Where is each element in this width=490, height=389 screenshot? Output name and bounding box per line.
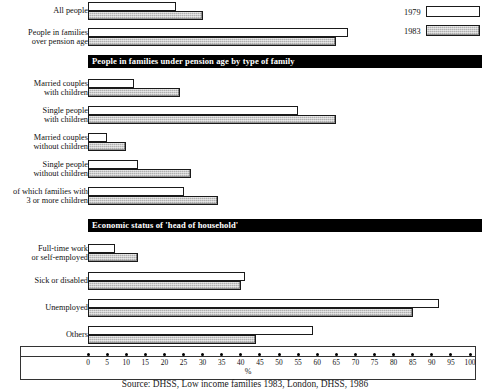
axis-tick-label: 45 xyxy=(256,358,263,367)
bar-1983 xyxy=(88,142,126,151)
category-label: of which families with 3 or more childre… xyxy=(0,187,88,206)
axis-line xyxy=(21,356,475,357)
axis-tick-label: 50 xyxy=(275,358,282,367)
bar-1979 xyxy=(88,2,176,11)
axis-tick xyxy=(316,353,319,356)
bar-1979 xyxy=(88,187,184,196)
axis-tick-label: 80 xyxy=(390,358,397,367)
legend-label-1979: 1979 xyxy=(404,7,421,18)
category-label: Sick or disabled xyxy=(0,276,88,285)
bar-1983 xyxy=(88,308,413,317)
axis-tick-label: 40 xyxy=(237,358,244,367)
legend-swatch-1983 xyxy=(426,25,480,36)
bar-1979 xyxy=(88,299,439,308)
axis-tick-label: 25 xyxy=(180,358,187,367)
axis-tick-label: 65 xyxy=(333,358,340,367)
axis-tick xyxy=(297,353,300,356)
bar-1983 xyxy=(88,335,256,344)
axis-tick-label: 60 xyxy=(313,358,320,367)
category-label: People in families over pension age xyxy=(0,28,88,47)
bar-1979 xyxy=(88,244,115,253)
axis-tick xyxy=(335,353,338,356)
axis-tick-label: 15 xyxy=(142,358,149,367)
axis-tick xyxy=(163,353,166,356)
x-axis: 0510152025303540455055606570758085909510… xyxy=(20,346,476,380)
axis-tick xyxy=(469,353,472,356)
axis-tick-label: 10 xyxy=(122,358,129,367)
axis-tick-label: 70 xyxy=(352,358,359,367)
axis-tick-label: 95 xyxy=(447,358,454,367)
legend-item-1983: 1983 xyxy=(404,25,482,44)
axis-tick xyxy=(144,353,147,356)
source-caption: Source: DHSS, Low income families 1983, … xyxy=(0,379,490,389)
bar-1983 xyxy=(88,11,203,20)
bar-1979 xyxy=(88,133,107,142)
axis-tick-label: 55 xyxy=(294,358,301,367)
axis-tick-label: 100 xyxy=(464,358,475,367)
bar-1979 xyxy=(88,272,245,281)
legend-item-1979: 1979 xyxy=(404,6,482,25)
bar-1983 xyxy=(88,37,336,46)
bar-1983 xyxy=(88,169,191,178)
axis-tick-label: 0 xyxy=(86,358,90,367)
bar-1983 xyxy=(88,196,218,205)
category-label: Single people without children xyxy=(0,160,88,179)
axis-tick-label: 35 xyxy=(218,358,225,367)
axis-tick-label: 90 xyxy=(428,358,435,367)
category-label: All people xyxy=(0,6,88,15)
legend-swatch-1979 xyxy=(426,6,480,17)
category-label: Married couples without children xyxy=(0,133,88,152)
axis-tick xyxy=(87,353,90,356)
legend: 1979 1983 xyxy=(404,6,482,44)
axis-tick xyxy=(106,353,109,356)
bar-1983 xyxy=(88,281,241,290)
bar-1979 xyxy=(88,28,348,37)
axis-tick xyxy=(182,353,185,356)
bar-1983 xyxy=(88,115,336,124)
axis-unit-label: % xyxy=(245,367,252,376)
category-label: Unemployed xyxy=(0,303,88,312)
bar-1983 xyxy=(88,253,138,262)
category-label: Others xyxy=(0,330,88,339)
category-label: Full-time work or self-employed xyxy=(0,244,88,263)
bar-1979 xyxy=(88,326,313,335)
category-label: Single people with children xyxy=(0,106,88,125)
axis-tick-label: 85 xyxy=(409,358,416,367)
axis-tick xyxy=(278,353,281,356)
bar-1979 xyxy=(88,79,134,88)
axis-tick-label: 75 xyxy=(371,358,378,367)
bar-1979 xyxy=(88,160,138,169)
axis-tick-label: 5 xyxy=(105,358,109,367)
section-banner-economic-status: Economic status of 'head of household' xyxy=(88,219,482,232)
section-banner-families-under-pension-age: People in families under pension age by … xyxy=(88,55,482,68)
category-label: Married couples with children xyxy=(0,79,88,98)
bar-1979 xyxy=(88,106,298,115)
axis-tick xyxy=(373,353,376,356)
bar-1983 xyxy=(88,88,180,97)
axis-tick xyxy=(125,353,128,356)
axis-tick xyxy=(354,353,357,356)
axis-tick-label: 30 xyxy=(199,358,206,367)
axis-tick-label: 20 xyxy=(161,358,168,367)
legend-label-1983: 1983 xyxy=(404,26,421,37)
